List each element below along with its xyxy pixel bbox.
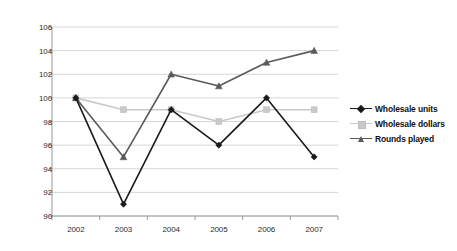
y-axis-tick-label: 96 — [30, 141, 52, 150]
legend-marker-square-icon — [358, 121, 366, 129]
x-axis-ticks: 200220032004200520062007 — [0, 221, 457, 237]
legend-marker-triangle-icon — [358, 136, 364, 142]
y-axis-ticks: 9092949698100102104106 — [28, 0, 52, 251]
series-line-0 — [76, 98, 314, 204]
legend-swatch — [350, 103, 372, 114]
y-axis-tick-label: 92 — [30, 188, 52, 197]
legend-item-rounds-played[interactable]: Rounds played — [350, 131, 445, 146]
series-line-1 — [76, 98, 314, 122]
x-axis-tick-label: 2005 — [210, 225, 227, 234]
chart-legend: Wholesale unitsWholesale dollarsRounds p… — [350, 101, 445, 146]
legend-item-label: Wholesale dollars — [375, 119, 445, 129]
y-axis-tick-label: 102 — [30, 70, 52, 79]
x-axis-tick-label: 2002 — [67, 225, 84, 234]
y-axis-tick-label: 94 — [30, 164, 52, 173]
y-axis-tick-label: 104 — [30, 46, 52, 55]
data-point-marker — [216, 119, 222, 125]
legend-swatch — [350, 133, 372, 144]
x-axis-tick-label: 2007 — [305, 225, 322, 234]
y-axis-tick-label: 98 — [30, 117, 52, 126]
y-axis-tick-label: 100 — [30, 93, 52, 102]
x-axis-tick-label: 2006 — [258, 225, 275, 234]
data-point-marker — [120, 201, 126, 207]
legend-marker-diamond-icon — [357, 104, 365, 112]
x-axis-tick-label: 2004 — [162, 225, 179, 234]
legend-item-wholesale-dollars[interactable]: Wholesale dollars — [350, 116, 445, 131]
legend-item-wholesale-units[interactable]: Wholesale units — [350, 101, 445, 116]
legend-item-label: Wholesale units — [375, 104, 437, 114]
data-point-marker — [121, 107, 127, 113]
y-axis-tick-label: 106 — [30, 23, 52, 32]
data-point-marker — [311, 107, 317, 113]
series-line-2 — [76, 51, 314, 157]
y-axis-tick-label: 90 — [30, 212, 52, 221]
x-axis-tick-label: 2003 — [115, 225, 132, 234]
legend-swatch — [350, 118, 372, 129]
line-chart: Indexed value 9092949698100102104106 200… — [0, 0, 457, 251]
data-point-marker — [264, 107, 270, 113]
legend-item-label: Rounds played — [375, 134, 434, 144]
